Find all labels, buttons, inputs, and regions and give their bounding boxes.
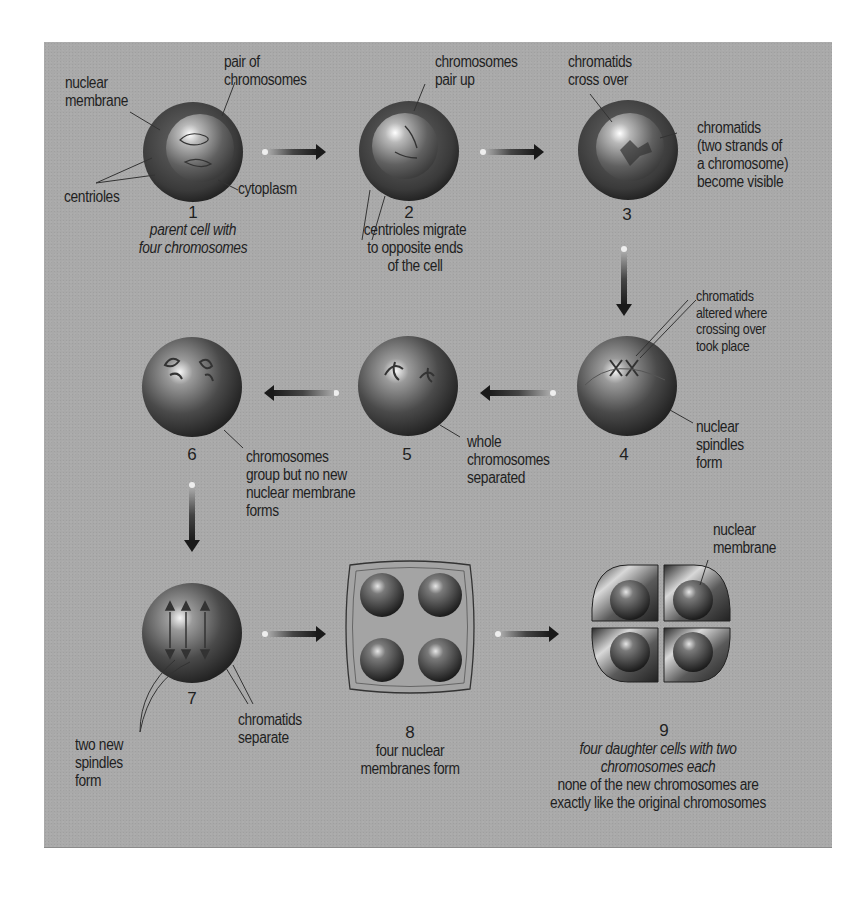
arrow-2-to-3 — [480, 144, 544, 160]
label-chromatids-separate: chromatids separate — [238, 711, 302, 747]
cell-stage-8 — [346, 561, 474, 693]
stage-number-6: 6 — [177, 446, 207, 464]
label-whole-chromosomes: whole chromosomes separated — [467, 433, 550, 487]
label-cytoplasm: cytoplasm — [238, 180, 297, 198]
stage-number-3: 3 — [612, 206, 642, 224]
stage-number-5: 5 — [392, 446, 422, 464]
arrow-3-to-4 — [616, 246, 632, 316]
stage-number-7: 7 — [177, 690, 207, 708]
caption-stage-1: parent cell with four chromosomes — [107, 221, 279, 257]
cell-stage-5 — [358, 336, 458, 436]
arrow-7-to-8 — [262, 626, 326, 642]
label-two-new-spindles: two new spindles form — [75, 736, 123, 790]
arrow-4-to-5 — [480, 385, 556, 401]
stage-number-2: 2 — [394, 204, 424, 222]
arrow-6-to-7 — [184, 482, 200, 552]
label-nuclear-membrane-9: nuclear membrane — [713, 521, 776, 557]
note-stage-9: none of the new chromosomes are exactly … — [538, 776, 777, 812]
label-pair-of-chromosomes: pair of chromosomes — [224, 53, 307, 89]
cell-stage-7 — [142, 583, 242, 683]
arrow-1-to-2 — [262, 144, 326, 160]
cell-stage-9 — [592, 565, 730, 682]
caption-stage-2: centrioles migrate to opposite ends of t… — [338, 221, 493, 275]
arrow-5-to-6 — [264, 385, 339, 401]
cell-stage-3 — [578, 100, 678, 200]
stage-number-1: 1 — [178, 204, 208, 222]
label-chromosomes-pair-up: chromosomes pair up — [435, 53, 518, 89]
caption-stage-9: four daughter cells with two chromosomes… — [557, 740, 760, 776]
cell-stage-6 — [142, 337, 242, 437]
label-nuclear-membrane: nuclear membrane — [65, 74, 128, 110]
label-chromosomes-group: chromosomes group but no new nuclear mem… — [246, 448, 355, 520]
cell-stage-4 — [577, 336, 677, 436]
label-chromatids-altered: chromatids altered where crossing over t… — [696, 288, 767, 354]
label-nuclear-spindles: nuclear spindles form — [696, 418, 744, 472]
stage-number-8: 8 — [395, 724, 425, 742]
label-chromatids-cross-over: chromatids cross over — [568, 53, 632, 89]
cell-stage-1 — [143, 102, 243, 202]
caption-stage-8: four nuclear membranes form — [333, 742, 488, 778]
stage-number-9: 9 — [649, 722, 679, 740]
cell-stage-2 — [359, 101, 459, 201]
stage-number-4: 4 — [609, 446, 639, 464]
arrow-8-to-9 — [495, 626, 559, 642]
label-chromatids-visible: chromatids (two strands of a chromosome)… — [697, 119, 788, 191]
label-centrioles: centrioles — [64, 188, 119, 206]
